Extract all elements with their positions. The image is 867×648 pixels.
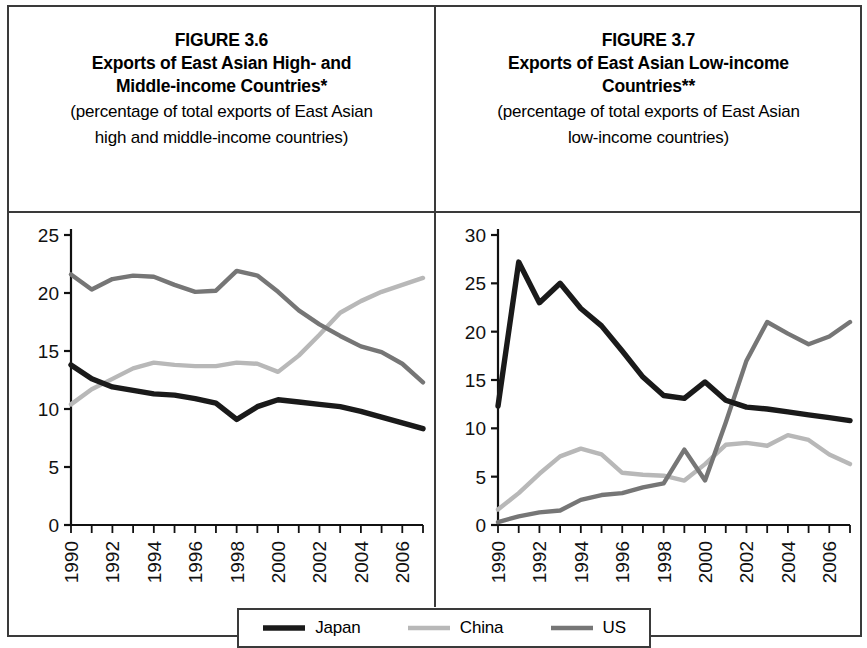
- x-tick-label-group: 2002: [736, 541, 757, 583]
- y-tick-label: 10: [38, 399, 59, 420]
- figure-number-left: FIGURE 3.6: [23, 29, 420, 52]
- plot-area-right: 0510152025301990199219941996199820002002…: [436, 213, 861, 607]
- x-tick-label: 2000: [695, 541, 716, 583]
- figure-frame: FIGURE 3.6 Exports of East Asian High- a…: [7, 5, 862, 637]
- x-tick-label-group: 1998: [654, 541, 675, 583]
- x-tick-label: 1998: [227, 541, 248, 583]
- legend-label-china: China: [460, 618, 503, 638]
- x-tick-label: 1990: [488, 541, 509, 583]
- legend-item-us: US: [550, 618, 626, 638]
- y-tick-label: 20: [38, 283, 59, 304]
- figure-subtitle-line2-left: high and middle-income countries): [23, 126, 420, 150]
- x-tick-label: 1994: [144, 541, 165, 584]
- x-tick-label: 2004: [778, 541, 799, 584]
- figure-number-right: FIGURE 3.7: [450, 29, 847, 52]
- line-chart-figure-3-7: 0510152025301990199219941996199820002002…: [436, 213, 861, 607]
- x-tick-label-group: 1996: [612, 541, 633, 583]
- x-tick-label: 1996: [612, 541, 633, 583]
- x-tick-label-group: 2004: [351, 541, 372, 584]
- series-line-us: [498, 322, 850, 522]
- x-tick-label-group: 2000: [268, 541, 289, 583]
- x-tick-label-group: 2006: [392, 541, 413, 583]
- x-tick-label-group: 1990: [488, 541, 509, 583]
- x-tick-label: 1992: [102, 541, 123, 583]
- y-tick-label: 15: [465, 370, 486, 391]
- panel-figure-3-6: FIGURE 3.6 Exports of East Asian High- a…: [9, 7, 434, 607]
- legend-label-japan: Japan: [315, 618, 360, 638]
- x-tick-label: 1994: [571, 541, 592, 584]
- x-tick-label-group: 1994: [144, 541, 165, 584]
- legend-swatch-china: [407, 621, 451, 635]
- x-tick-label-group: 2004: [778, 541, 799, 584]
- series-line-japan: [498, 262, 850, 421]
- y-tick-label: 25: [465, 273, 486, 294]
- x-tick-label-group: 1994: [571, 541, 592, 584]
- figure-title-line2-left: Exports of East Asian High- and: [23, 52, 420, 75]
- y-tick-label: 0: [48, 515, 59, 536]
- panel-title-block-right: FIGURE 3.7 Exports of East Asian Low-inc…: [436, 7, 861, 211]
- x-tick-label: 2000: [268, 541, 289, 583]
- legend-label-us: US: [603, 618, 626, 638]
- x-tick-label: 1992: [529, 541, 550, 583]
- series-line-china: [498, 435, 850, 509]
- x-tick-label: 2006: [819, 541, 840, 583]
- x-tick-label-group: 1992: [529, 541, 550, 583]
- x-tick-label-group: 2002: [309, 541, 330, 583]
- x-tick-label: 2006: [392, 541, 413, 583]
- y-tick-label: 25: [38, 225, 59, 246]
- chart-legend: Japan China US: [237, 608, 651, 648]
- figure-subtitle-line1-left: (percentage of total exports of East Asi…: [23, 100, 420, 124]
- x-tick-label-group: 1998: [227, 541, 248, 583]
- figure-subtitle-line2-right: low-income countries): [450, 126, 847, 150]
- figure-title-line2-right: Exports of East Asian Low-income: [450, 52, 847, 75]
- series-line-us: [71, 271, 423, 382]
- figure-title-line3-left: Middle-income Countries*: [23, 75, 420, 98]
- y-tick-label: 15: [38, 341, 59, 362]
- x-tick-label: 2004: [351, 541, 372, 584]
- y-tick-label: 5: [48, 457, 59, 478]
- legend-swatch-us: [550, 621, 594, 635]
- x-tick-label: 1998: [654, 541, 675, 583]
- figure-title-line3-right: Countries**: [450, 75, 847, 98]
- x-tick-label-group: 1992: [102, 541, 123, 583]
- x-tick-label-group: 2006: [819, 541, 840, 583]
- line-chart-figure-3-6: 0510152025199019921994199619982000200220…: [9, 213, 434, 607]
- y-tick-label: 10: [465, 418, 486, 439]
- x-tick-label: 1996: [185, 541, 206, 583]
- y-tick-label: 0: [475, 515, 486, 536]
- legend-swatch-japan: [262, 621, 306, 635]
- x-tick-label: 2002: [736, 541, 757, 583]
- plot-area-left: 0510152025199019921994199619982000200220…: [9, 213, 434, 607]
- figure-subtitle-line1-right: (percentage of total exports of East Asi…: [450, 100, 847, 124]
- x-tick-label-group: 2000: [695, 541, 716, 583]
- x-tick-label: 2002: [309, 541, 330, 583]
- series-line-china: [71, 278, 423, 404]
- y-tick-label: 20: [465, 322, 486, 343]
- y-tick-label: 5: [475, 467, 486, 488]
- panel-figure-3-7: FIGURE 3.7 Exports of East Asian Low-inc…: [436, 7, 861, 607]
- legend-item-china: China: [407, 618, 503, 638]
- y-tick-label: 30: [465, 225, 486, 246]
- x-tick-label-group: 1996: [185, 541, 206, 583]
- x-tick-label-group: 1990: [61, 541, 82, 583]
- x-tick-label: 1990: [61, 541, 82, 583]
- legend-item-japan: Japan: [262, 618, 360, 638]
- panel-title-block-left: FIGURE 3.6 Exports of East Asian High- a…: [9, 7, 434, 211]
